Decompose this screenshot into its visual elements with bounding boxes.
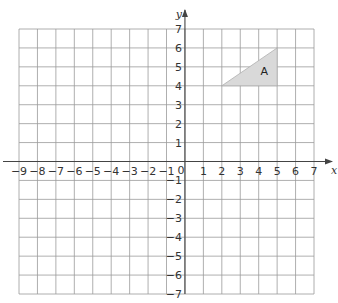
x-tick-label: 3 bbox=[237, 165, 244, 178]
y-tick-label: 5 bbox=[175, 61, 182, 74]
y-tick-label: −7 bbox=[166, 288, 182, 301]
y-axis-arrow-icon bbox=[182, 9, 188, 17]
y-tick-label: 7 bbox=[175, 23, 182, 36]
x-tick-label: −2 bbox=[140, 165, 156, 178]
x-tick-label: 5 bbox=[274, 165, 281, 178]
x-tick-label: −3 bbox=[122, 165, 138, 178]
y-tick-label: 6 bbox=[175, 42, 182, 55]
y-tick-label: −3 bbox=[166, 212, 182, 225]
y-tick-label: −4 bbox=[166, 231, 182, 244]
x-tick-label: −7 bbox=[48, 165, 64, 178]
x-tick-label: −9 bbox=[11, 165, 27, 178]
y-tick-label: −6 bbox=[166, 269, 182, 282]
y-tick-label: 4 bbox=[175, 80, 182, 93]
x-tick-label: 1 bbox=[200, 165, 207, 178]
x-tick-label: 7 bbox=[311, 165, 318, 178]
y-tick-label: −5 bbox=[166, 250, 182, 263]
x-axis-label: x bbox=[331, 164, 338, 177]
x-tick-label: −4 bbox=[103, 165, 119, 178]
x-tick-label: −5 bbox=[85, 165, 101, 178]
shape-label-a: A bbox=[260, 65, 268, 78]
coordinate-grid: A −9−8−7−6−5−4−3−2−112345670−7−6−5−4−3−2… bbox=[0, 0, 338, 303]
y-axis-label: y bbox=[175, 8, 183, 21]
x-tick-label: −6 bbox=[66, 165, 82, 178]
x-tick-label: 6 bbox=[292, 165, 299, 178]
y-tick-label: 3 bbox=[175, 99, 182, 112]
y-tick-label: 1 bbox=[175, 137, 182, 150]
y-tick-label: −1 bbox=[166, 174, 182, 187]
y-tick-label: 2 bbox=[175, 118, 182, 131]
x-tick-label: 4 bbox=[255, 165, 262, 178]
x-tick-label: −8 bbox=[29, 165, 45, 178]
x-tick-label: 2 bbox=[218, 165, 225, 178]
y-tick-label: −2 bbox=[166, 193, 182, 206]
